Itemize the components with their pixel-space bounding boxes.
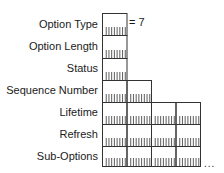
packet-field-diagram [0, 0, 224, 173]
